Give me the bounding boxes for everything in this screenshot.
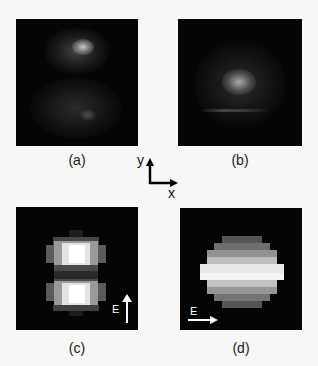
horizontal-streak xyxy=(200,109,270,112)
pixel xyxy=(214,243,270,250)
pixel xyxy=(207,257,277,264)
panel-d-label: (d) xyxy=(221,340,261,356)
upper-lobe-core xyxy=(72,39,94,55)
field-label-c: E xyxy=(112,303,119,315)
pixel xyxy=(207,287,277,294)
pixel xyxy=(54,271,98,279)
pixel xyxy=(207,250,277,257)
pixel xyxy=(69,245,85,263)
y-axis-label: y xyxy=(137,152,144,168)
lower-lobe-glow xyxy=(30,77,122,139)
pixel xyxy=(69,311,83,316)
pixel xyxy=(69,285,85,303)
central-speckle xyxy=(222,69,256,95)
arrow-right-icon xyxy=(186,314,220,326)
panel-c-label: (c) xyxy=(57,340,97,356)
panel-b-image xyxy=(178,19,302,146)
arrow-up-icon xyxy=(120,293,134,325)
pixel xyxy=(222,301,262,308)
pixel xyxy=(69,230,83,237)
pixel xyxy=(200,264,284,273)
x-axis-label: x xyxy=(168,185,175,201)
panel-d-image: E xyxy=(180,208,302,330)
axes-indicator xyxy=(140,155,185,200)
lower-lobe-speckle xyxy=(80,109,96,121)
panel-b-label: (b) xyxy=(220,152,260,168)
pixel xyxy=(214,294,270,301)
pixel xyxy=(207,280,277,287)
pixel xyxy=(222,236,262,243)
panel-a-image xyxy=(16,19,138,146)
xy-axes-icon xyxy=(140,155,185,200)
panel-a-label: (a) xyxy=(57,152,97,168)
pixel xyxy=(200,273,284,280)
panel-c-image: E xyxy=(16,207,138,330)
